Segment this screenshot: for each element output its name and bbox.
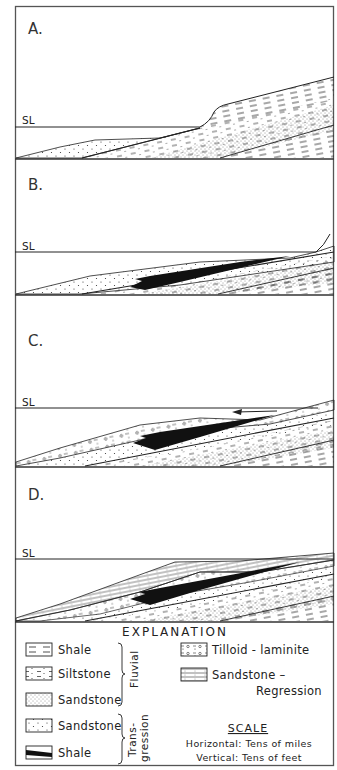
panel-label: A. [28,20,43,38]
fluvial-sandstone-swatch-icon [26,693,52,706]
scale-vertical: Vertical: Tens of feet [196,752,302,763]
legend-item-transgressive-sandstone: Sandstone [26,719,122,733]
tilloid-swatch-icon [181,643,207,656]
sea-level-label: SL [22,547,35,559]
shale-swatch-icon [26,643,52,656]
legend-label: Sandstone – [212,668,286,682]
scale-block: SCALE Horizontal: Tens of miles Vertical… [186,722,312,763]
transgression-group-label-1: Trans- [126,722,138,758]
scale-horizontal: Horizontal: Tens of miles [186,738,312,749]
legend-item-transgressive-shale: Shale [26,746,91,760]
panel-d: D. SL [15,486,334,621]
panel-label: D. [28,486,44,504]
sea-level-label: SL [22,396,35,408]
fluvial-group-label: Fluvial [128,650,140,688]
legend-title: EXPLANATION [122,625,228,639]
legend-label: Sandstone [58,719,122,733]
legend-item-regression-sandstone: Sandstone – Regression [181,668,322,698]
legend-label: Shale [58,643,91,657]
panel-label: C. [28,332,43,350]
panel-b: B. SL [15,176,334,294]
legend-label: Regression [256,684,322,698]
legend-item-fluvial-sandstone: Sandstone [26,693,122,707]
explanation-legend: EXPLANATION Shale Siltstone Sandstone Sa… [26,625,322,764]
legend-label: Shale [58,746,91,760]
arrow-head [232,409,242,415]
scale-title: SCALE [228,722,268,735]
transgression-group-label-2: gression [138,714,150,762]
legend-item-siltstone: Siltstone [26,667,111,681]
panel-a: A. SL [15,20,334,158]
panel-label: B. [28,176,43,194]
regression-sandstone-swatch-icon [181,668,207,681]
legend-label: Sandstone [58,693,122,707]
legend-label: Tilloid - laminite [211,643,309,657]
cross-section-figure: A. SL B. SL C. SL [0,0,337,770]
panel-c: C. SL [15,332,334,466]
legend-item-shale: Shale [26,643,91,657]
legend-item-tilloid-laminite: Tilloid - laminite [181,643,309,657]
legend-label: Siltstone [58,667,111,681]
regression-arrow [236,411,277,412]
sea-level-label: SL [22,114,35,126]
sea-level-label: SL [22,240,35,252]
transgressive-sandstone-swatch-icon [26,719,52,732]
siltstone-swatch-icon [26,667,52,680]
